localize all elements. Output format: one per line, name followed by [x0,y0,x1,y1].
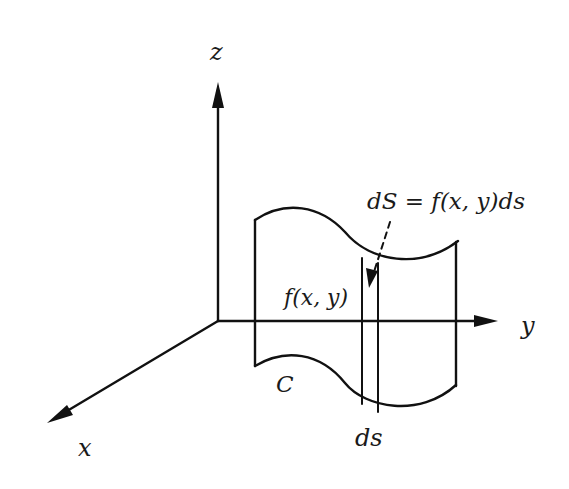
z-axis-arrow-icon [212,82,224,108]
pointer-arrow-icon [366,268,378,288]
x-axis [47,321,218,423]
diagram-svg [0,0,569,489]
y-axis-arrow-icon [474,315,498,327]
diagram-canvas: z y x dS = f(x, y)ds f(x, y) C ds [0,0,569,489]
curve-label: C [276,373,294,396]
z-axis-label: z [210,40,223,64]
arc-element-label: ds [355,426,383,450]
z-axis [212,82,224,321]
top-curve [255,208,458,259]
x-axis-label: x [78,436,92,460]
area-element-label: dS = f(x, y)ds [367,190,525,213]
x-axis-arrow-icon [47,405,73,423]
y-axis-label: y [521,314,535,338]
height-label: f(x, y) [284,287,348,309]
